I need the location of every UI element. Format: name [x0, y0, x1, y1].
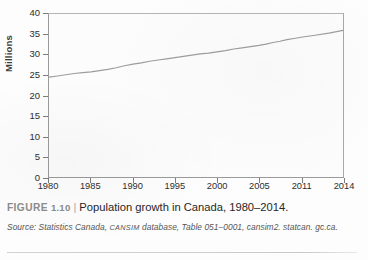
- source-prefix: Source:: [7, 222, 36, 232]
- y-tick-label: 40: [14, 7, 40, 18]
- y-tick-label: 20: [14, 90, 40, 101]
- y-tick-label: 15: [14, 110, 40, 121]
- source-text-2: database, Table 051–0001, cansim2. statc…: [142, 222, 313, 232]
- y-tick-label: 5: [14, 151, 40, 162]
- line-series-svg: [49, 14, 343, 177]
- source-cansim: CANSIM: [109, 223, 139, 232]
- x-tick-mark: [344, 178, 345, 183]
- x-tick-mark: [90, 178, 91, 183]
- x-tick-mark: [259, 178, 260, 183]
- y-tick-label: 30: [14, 48, 40, 59]
- chart: Millions 0510152025303540 19801985199019…: [0, 0, 368, 198]
- bottom-divider: [7, 252, 357, 253]
- figure-caption: FIGURE 1.10|Population growth in Canada,…: [7, 200, 363, 215]
- x-tick-mark: [175, 178, 176, 183]
- figure-container: Millions 0510152025303540 19801985199019…: [0, 0, 368, 260]
- plot-area: [48, 13, 344, 178]
- x-tick-mark: [133, 178, 134, 183]
- y-tick-label: 25: [14, 69, 40, 80]
- figure-source: Source: Statistics Canada, CANSIM databa…: [7, 221, 359, 234]
- caption-figure-number: 1.10: [51, 202, 70, 213]
- x-tick-mark: [302, 178, 303, 183]
- y-tick-label: 35: [14, 28, 40, 39]
- caption-title: Population growth in Canada, 1980–2014.: [79, 201, 288, 213]
- population-line: [49, 30, 343, 77]
- caption-separator: |: [70, 201, 79, 213]
- x-tick-mark: [48, 178, 49, 183]
- y-axis-title: Millions: [3, 35, 14, 72]
- source-text-3: gc.ca.: [315, 222, 338, 232]
- source-text-1: Statistics Canada,: [39, 222, 107, 232]
- y-tick-label: 10: [14, 131, 40, 142]
- x-tick-mark: [217, 178, 218, 183]
- caption-figure-word: FIGURE: [7, 202, 48, 213]
